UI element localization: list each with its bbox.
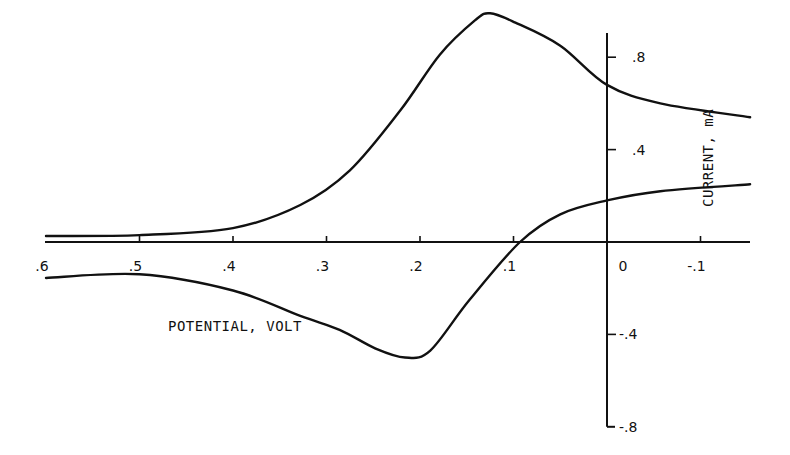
x-tick-label: .4 <box>222 258 235 274</box>
x-tick-label: .2 <box>409 258 422 274</box>
x-tick-label: .1 <box>503 258 516 274</box>
axes <box>45 33 750 427</box>
x-tick-label: .6 <box>35 258 48 274</box>
y-tick-label: -.4 <box>619 326 638 342</box>
x-tick-label: .5 <box>129 258 142 274</box>
y-tick-label: .4 <box>632 142 645 158</box>
x-tick-label: -.1 <box>687 258 705 274</box>
upper-branch-curve <box>46 13 750 236</box>
x-tick-label: 0 <box>619 258 628 274</box>
y-axis-label: CURRENT, mA <box>700 109 716 207</box>
y-tick-label: -.8 <box>619 419 637 435</box>
lower-branch-curve <box>46 184 750 358</box>
cyclic-voltammogram-chart: .6.5.4.3.2.10-.1 .8.4-.4-.8 POTENTIAL, V… <box>0 0 790 455</box>
y-tick-label: .8 <box>632 49 645 65</box>
x-axis-label: POTENTIAL, VOLT <box>168 318 302 334</box>
x-tick-label: .3 <box>316 258 329 274</box>
